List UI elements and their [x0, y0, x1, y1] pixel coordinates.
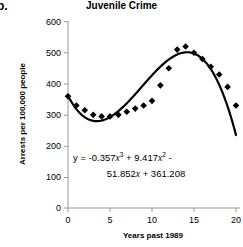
- equation-part-2: + 9.417: [123, 152, 158, 163]
- data-point: [82, 107, 89, 114]
- data-point: [124, 108, 131, 115]
- juvenile-crime-chart-figure: b. Juvenile Crime Arrests per 100,000 pe…: [0, 0, 243, 247]
- y-tick-marks: [64, 22, 68, 208]
- data-point: [98, 113, 105, 120]
- equation-part-4: 51.852: [107, 168, 136, 179]
- data-point: [174, 46, 181, 53]
- data-point-markers: [65, 43, 240, 119]
- plot-area: [0, 0, 243, 247]
- equation-part-5: + 361.208: [140, 168, 185, 179]
- equation-part-3: -: [166, 152, 172, 163]
- data-point: [149, 98, 156, 105]
- data-point: [216, 71, 223, 78]
- data-point: [166, 65, 173, 72]
- data-point: [224, 84, 231, 91]
- data-point: [90, 112, 97, 119]
- data-point: [182, 43, 189, 50]
- x-tick-marks: [68, 208, 236, 212]
- data-point: [157, 82, 164, 89]
- equation-annotation: y = -0.357x3 + 9.417x2 - 51.852x + 361.2…: [73, 150, 225, 182]
- data-point: [140, 102, 147, 109]
- data-point: [233, 102, 240, 109]
- equation-part-1: y = -0.357: [73, 152, 116, 163]
- data-point: [132, 105, 139, 112]
